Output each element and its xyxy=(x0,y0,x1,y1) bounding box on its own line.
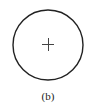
diagram-figure: (b) xyxy=(0,0,91,108)
figure-caption: (b) xyxy=(0,90,91,102)
center-plus-icon xyxy=(42,38,54,51)
